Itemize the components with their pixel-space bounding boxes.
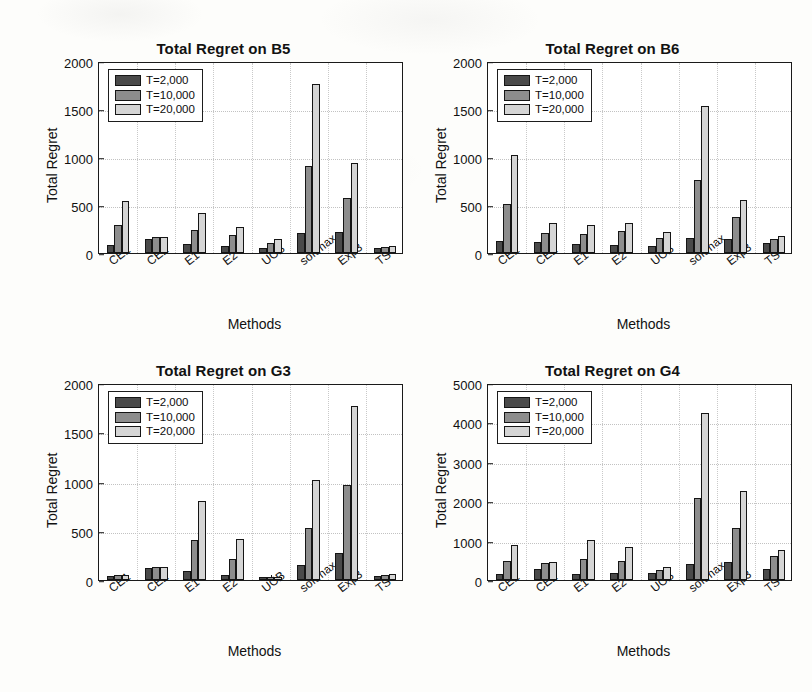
x-gridline bbox=[641, 63, 642, 253]
bar-e1-series3 bbox=[587, 540, 595, 580]
bar-ce1-series1 bbox=[107, 576, 115, 580]
bar-exp3-series1 bbox=[335, 232, 343, 253]
bar-ts-series2 bbox=[381, 575, 389, 580]
bar-group-e2 bbox=[610, 385, 633, 580]
bar-e2-series2 bbox=[229, 235, 237, 253]
bar-e2-series2 bbox=[229, 559, 237, 580]
y-tick-label: 0 bbox=[86, 575, 99, 590]
y-tick-mark bbox=[488, 581, 493, 582]
legend-label-series1: T=2,000 bbox=[535, 75, 578, 87]
x-gridline bbox=[755, 385, 756, 580]
x-axis-label: Methods bbox=[425, 643, 800, 659]
legend-swatch-icon-series1 bbox=[504, 397, 530, 408]
bar-e1-series3 bbox=[587, 225, 595, 253]
bar-e2-series1 bbox=[221, 575, 229, 580]
y-tick-mark bbox=[488, 206, 493, 207]
legend-item-series1: T=2,000 bbox=[504, 75, 584, 87]
legend-label-series1: T=2,000 bbox=[535, 397, 578, 409]
bar-ce1-series3 bbox=[122, 575, 130, 580]
x-gridline bbox=[366, 63, 367, 253]
x-gridline bbox=[252, 63, 253, 253]
chart-panel-g4: Total Regret on G4010002000300040005000C… bbox=[425, 362, 800, 677]
bar-ts-series1 bbox=[374, 248, 382, 253]
legend-label-series2: T=10,000 bbox=[146, 90, 195, 102]
bar-group-softmax bbox=[297, 63, 320, 253]
chart-title: Total Regret on G3 bbox=[36, 362, 411, 379]
legend-swatch-icon-series2 bbox=[504, 90, 530, 101]
legend-swatch-icon-series1 bbox=[115, 397, 141, 408]
bar-ucb-series3 bbox=[663, 232, 671, 253]
bar-ce1-series1 bbox=[107, 245, 115, 253]
y-tick-mark bbox=[488, 110, 493, 111]
x-gridline bbox=[717, 385, 718, 580]
bar-exp3-series2 bbox=[343, 485, 351, 580]
bar-e2-series2 bbox=[618, 561, 626, 580]
legend-label-series3: T=20,000 bbox=[146, 426, 195, 438]
bar-e1-series1 bbox=[572, 244, 580, 253]
y-tick-label: 0 bbox=[475, 575, 488, 590]
bar-e1-series3 bbox=[198, 501, 206, 580]
y-tick-label: 1000 bbox=[64, 152, 99, 167]
bar-group-ucb bbox=[259, 385, 282, 580]
bar-group-ts bbox=[763, 63, 786, 253]
y-tick-mark bbox=[488, 384, 493, 385]
bar-exp3-series2 bbox=[732, 528, 740, 580]
bar-group-e2 bbox=[610, 63, 633, 253]
x-gridline bbox=[366, 385, 367, 580]
y-tick-label: 500 bbox=[460, 200, 488, 215]
bar-e1-series1 bbox=[183, 571, 191, 580]
bar-ts-series2 bbox=[770, 556, 778, 580]
y-tick-mark bbox=[99, 158, 104, 159]
bar-exp3-series2 bbox=[343, 198, 351, 253]
y-tick-mark bbox=[488, 254, 493, 255]
legend-label-series3: T=20,000 bbox=[535, 426, 584, 438]
bar-ts-series3 bbox=[778, 236, 786, 253]
bar-ce1-series2 bbox=[503, 561, 511, 580]
bar-ce2-series2 bbox=[152, 237, 160, 253]
bar-softmax-series3 bbox=[701, 413, 709, 580]
bar-ce2-series1 bbox=[145, 568, 153, 580]
bar-softmax-series1 bbox=[297, 565, 305, 580]
legend: T=2,000T=10,000T=20,000 bbox=[108, 391, 203, 444]
bar-ucb-series2 bbox=[656, 570, 664, 580]
bar-group-exp3 bbox=[335, 385, 358, 580]
legend-item-series3: T=20,000 bbox=[504, 426, 584, 438]
legend-swatch-icon-series3 bbox=[115, 104, 141, 115]
y-tick-label: 0 bbox=[475, 248, 488, 263]
bar-ce1-series1 bbox=[496, 241, 504, 253]
bar-ce1-series1 bbox=[496, 574, 504, 580]
bar-group-ts bbox=[374, 385, 397, 580]
bar-exp3-series3 bbox=[740, 491, 748, 580]
y-tick-mark bbox=[488, 424, 493, 425]
bar-group-exp3 bbox=[335, 63, 358, 253]
bar-exp3-series2 bbox=[732, 217, 740, 253]
y-tick-label: 1000 bbox=[453, 152, 488, 167]
legend-item-series2: T=10,000 bbox=[504, 90, 584, 102]
chart-panel-b5: Total Regret on B50500100015002000CE1CE2… bbox=[36, 40, 411, 350]
bar-softmax-series2 bbox=[694, 180, 702, 253]
x-gridline bbox=[641, 385, 642, 580]
y-tick-label: 2000 bbox=[64, 378, 99, 393]
legend-item-series3: T=20,000 bbox=[504, 104, 584, 116]
y-tick-label: 500 bbox=[71, 200, 99, 215]
legend-item-series2: T=10,000 bbox=[115, 90, 195, 102]
y-tick-mark bbox=[99, 384, 104, 385]
bar-exp3-series3 bbox=[351, 163, 359, 253]
legend-item-series3: T=20,000 bbox=[115, 426, 195, 438]
bar-exp3-series1 bbox=[335, 553, 343, 580]
y-tick-label: 1000 bbox=[453, 535, 488, 550]
y-tick-mark bbox=[488, 542, 493, 543]
x-axis-label: Methods bbox=[36, 316, 411, 332]
x-gridline bbox=[602, 385, 603, 580]
legend-item-series3: T=20,000 bbox=[115, 104, 195, 116]
x-gridline bbox=[755, 63, 756, 253]
bar-ce2-series2 bbox=[541, 233, 549, 253]
bar-ce1-series3 bbox=[122, 201, 130, 253]
x-gridline bbox=[290, 385, 291, 580]
legend-swatch-icon-series1 bbox=[115, 75, 141, 86]
bar-ucb-series3 bbox=[274, 239, 282, 253]
bar-e2-series1 bbox=[610, 573, 618, 580]
y-tick-mark bbox=[488, 463, 493, 464]
bar-e2-series1 bbox=[221, 246, 229, 253]
bar-ucb-series1 bbox=[259, 577, 267, 580]
